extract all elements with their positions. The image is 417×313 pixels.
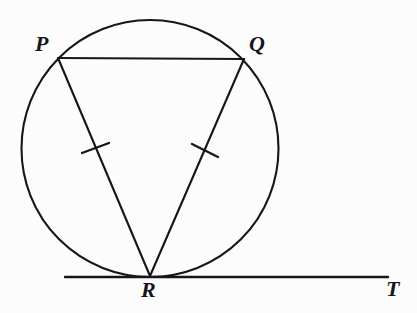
vertex-label-p: P bbox=[35, 33, 48, 55]
vertex-label-r: R bbox=[141, 279, 156, 301]
segment-pq bbox=[58, 58, 244, 59]
tick-mark-qr bbox=[192, 144, 218, 157]
geometry-figure-svg bbox=[0, 0, 417, 313]
segment-pr bbox=[58, 58, 150, 276]
segment-qr bbox=[150, 59, 244, 276]
vertex-label-q: Q bbox=[249, 33, 265, 55]
vertex-label-t: T bbox=[386, 278, 399, 300]
geometry-diagram: P Q R T bbox=[0, 0, 417, 313]
